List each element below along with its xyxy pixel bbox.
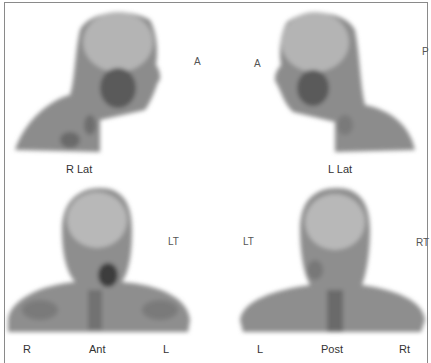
panel-caption: L Lat [328, 163, 352, 175]
scan-image-right-lateral [0, 0, 215, 180]
orientation-label-anterior: A [254, 58, 261, 69]
scan-image-posterior [215, 180, 431, 358]
side-label-left: L [257, 343, 263, 355]
orientation-label-left: LT [168, 236, 179, 247]
side-label-right: Rt [399, 343, 410, 355]
orientation-label-posterior: P [422, 46, 429, 57]
orientation-label-left: LT [243, 236, 254, 247]
panel-caption: Ant [89, 343, 106, 355]
panel-caption: R Lat [66, 163, 92, 175]
side-label-left: L [163, 343, 169, 355]
scan-image-anterior [0, 180, 215, 358]
panel-left-lateral: A P L Lat [215, 0, 431, 180]
panel-caption: Post [321, 343, 343, 355]
panel-posterior: LT RT L Post Rt [215, 180, 431, 358]
orientation-label-anterior: A [194, 56, 201, 67]
orientation-label-right: RT [416, 237, 429, 248]
panel-anterior: LT R Ant L [0, 180, 215, 358]
panel-right-lateral: A R Lat [0, 0, 215, 180]
scan-image-left-lateral [215, 0, 431, 180]
side-label-right: R [23, 343, 31, 355]
